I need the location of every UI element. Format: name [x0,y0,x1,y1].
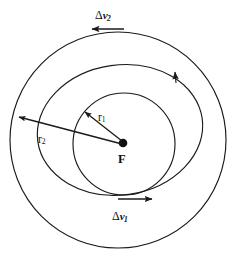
delta-v2-delta-symbol: Δ [95,8,103,22]
r2-label: r2 [38,130,46,146]
orbit-vector-graphic [0,0,242,269]
hohmann-transfer-diagram: Δv2 Δv1 r1 r2 F [0,0,242,269]
r2-radius-arrow [19,117,122,144]
r2-subscript: 2 [42,137,46,146]
transfer-ellipse [29,54,211,206]
delta-v1-label: Δv1 [112,207,128,224]
delta-v1-delta-symbol: Δ [112,209,120,223]
delta-v1-subscript: 1 [124,215,128,224]
focus-label: F [118,150,126,166]
delta-v2-label: Δv2 [95,6,111,23]
r1-subscript: 1 [102,115,106,124]
delta-v2-subscript: 2 [107,14,111,23]
transfer-direction-arrow [175,72,176,83]
r1-label: r1 [98,108,106,124]
focus-label-text: F [118,152,126,166]
